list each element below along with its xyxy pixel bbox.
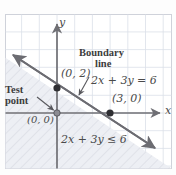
- inequality-label: 2x + 3y ≤ 6: [61, 133, 127, 146]
- point-x-intercept: [106, 109, 113, 116]
- label-point-0-0: (0, 0): [27, 114, 54, 125]
- test-point-callout-line2: point: [5, 95, 28, 106]
- point-test-origin: [54, 110, 60, 116]
- point-y-intercept: [53, 84, 60, 91]
- label-point-3-0: (3, 0): [112, 92, 142, 105]
- boundary-callout-line2: line: [95, 58, 111, 69]
- x-axis-label: x: [165, 104, 171, 117]
- graph-canvas: [0, 0, 176, 175]
- equation-label: 2x + 3y = 6: [91, 74, 157, 87]
- inequality-graph-figure: y x Boundary line Test point (0, 2) (3, …: [0, 0, 176, 175]
- label-point-0-2: (0, 2): [61, 67, 91, 80]
- boundary-callout-line1: Boundary: [79, 47, 124, 58]
- y-axis-label: y: [59, 16, 65, 29]
- test-point-callout-line1: Test: [5, 84, 23, 95]
